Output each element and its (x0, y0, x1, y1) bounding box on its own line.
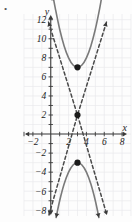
x-axis-label: x (122, 122, 128, 133)
point-dashed-lines-intersection (74, 112, 80, 118)
y-tick-label-4: 4 (42, 91, 47, 101)
point-lower-parabola-vertex (74, 160, 80, 166)
point-upper-parabola-vertex (74, 64, 80, 70)
bullet-marker: • (4, 4, 7, 14)
figure-container: −2246812108642−2−4−6−8xy• (0, 0, 132, 222)
y-tick-label-8: 8 (42, 53, 47, 63)
x-tick-label--2: −2 (27, 137, 38, 147)
y-tick-label--8: −8 (35, 206, 46, 216)
y-tick-label-10: 10 (37, 34, 47, 44)
y-tick-label-2: 2 (42, 110, 47, 120)
y-tick-label--2: −2 (35, 148, 46, 158)
y-tick-label--6: −6 (35, 187, 46, 197)
figure-background (0, 0, 132, 222)
y-tick-label-6: 6 (42, 72, 47, 82)
coordinate-plane-svg: −2246812108642−2−4−6−8xy• (0, 0, 132, 222)
y-tick-label-12: 12 (37, 15, 47, 25)
x-tick-label-6: 6 (102, 137, 107, 147)
y-axis-label: y (44, 6, 50, 17)
y-tick-label--4: −4 (35, 167, 46, 177)
x-tick-label-8: 8 (120, 137, 125, 147)
